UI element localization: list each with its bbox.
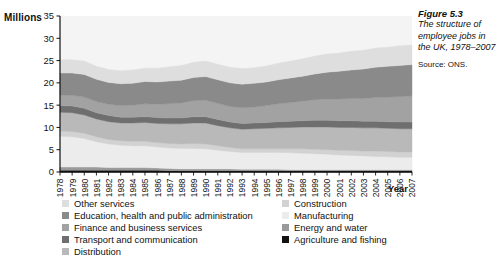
y-tick-label: 10 — [44, 122, 54, 133]
legend-item[interactable]: Transport and communication — [62, 234, 253, 246]
x-tick-label: 2002 — [347, 178, 357, 197]
stacked-area-chart: 0510152025303519781979198019811982198319… — [0, 0, 420, 200]
x-tick-label: 1979 — [68, 178, 78, 197]
x-tick-label: 1978 — [55, 178, 65, 197]
legend-item[interactable]: Agriculture and fishing — [282, 234, 387, 246]
legend-swatch-icon — [62, 236, 69, 243]
y-tick-label: 15 — [44, 100, 54, 111]
legend-item[interactable]: Manufacturing — [282, 210, 387, 222]
x-tick-label: 1998 — [298, 178, 308, 197]
x-tick-label: 1999 — [310, 178, 320, 197]
x-tick-label: 1990 — [201, 178, 211, 197]
figure-source: Source: ONS. — [418, 59, 496, 70]
x-tick-label: 1980 — [80, 178, 90, 197]
x-tick-label: 1989 — [189, 178, 199, 197]
legend-swatch-icon — [62, 212, 69, 219]
x-tick-label: 2003 — [359, 178, 369, 197]
x-tick-label: 1997 — [286, 178, 296, 197]
y-tick-label: 30 — [44, 33, 54, 44]
x-tick-label: 1984 — [128, 178, 138, 197]
legend-item-label: Distribution — [74, 247, 121, 257]
x-tick-label: 1986 — [153, 178, 163, 197]
x-tick-label: 1991 — [213, 178, 223, 197]
x-tick-label: 1982 — [104, 178, 114, 197]
legend-swatch-icon — [282, 224, 289, 231]
legend-item[interactable]: Other services — [62, 198, 253, 210]
figure-container: Millions 0510152025303519781979198019811… — [0, 0, 498, 263]
legend-item[interactable]: Education, health and public administrat… — [62, 210, 253, 222]
legend-swatch-icon — [62, 224, 69, 231]
y-tick-label: 25 — [44, 55, 54, 66]
legend-item-label: Other services — [74, 199, 134, 209]
legend-swatch-icon — [282, 212, 289, 219]
figure-caption-text: The structure of employee jobs in the UK… — [418, 19, 496, 53]
legend-item-label: Agriculture and fishing — [294, 235, 387, 245]
legend-item[interactable]: Construction — [282, 198, 387, 210]
legend-swatch-icon — [62, 248, 69, 255]
chart-legend: Other servicesEducation, health and publ… — [0, 198, 498, 262]
legend-item-label: Education, health and public administrat… — [74, 211, 253, 221]
legend-item[interactable]: Distribution — [62, 246, 253, 258]
x-tick-label: 2007 — [407, 178, 417, 197]
x-tick-label: 1992 — [225, 178, 235, 197]
legend-item-label: Construction — [294, 199, 347, 209]
x-tick-label: 1981 — [92, 178, 102, 197]
x-tick-label: 1987 — [165, 178, 175, 197]
x-tick-label: 2004 — [371, 178, 381, 197]
x-tick-label: 2001 — [335, 178, 345, 197]
y-tick-label: 35 — [44, 10, 54, 21]
legend-column-right: ConstructionManufacturingEnergy and wate… — [282, 198, 387, 246]
legend-item[interactable]: Energy and water — [282, 222, 387, 234]
y-tick-label: 20 — [44, 77, 54, 88]
legend-item-label: Transport and communication — [74, 235, 198, 245]
legend-column-left: Other servicesEducation, health and publ… — [62, 198, 253, 258]
x-tick-label: 2000 — [322, 178, 332, 197]
legend-item-label: Finance and business services — [74, 223, 202, 233]
y-tick-label: 0 — [49, 166, 54, 177]
legend-swatch-icon — [282, 200, 289, 207]
legend-swatch-icon — [62, 200, 69, 207]
legend-item-label: Energy and water — [294, 223, 367, 233]
figure-caption: Figure 5.3 The structure of employee job… — [418, 8, 496, 70]
legend-swatch-icon — [282, 236, 289, 243]
chart-svg: 0510152025303519781979198019811982198319… — [0, 0, 420, 200]
x-tick-label: 1983 — [116, 178, 126, 197]
x-axis-title: Year — [388, 183, 408, 194]
legend-item[interactable]: Finance and business services — [62, 222, 253, 234]
x-tick-label: 1996 — [274, 178, 284, 197]
x-tick-label: 1994 — [250, 178, 260, 197]
x-tick-label: 1993 — [237, 178, 247, 197]
x-tick-label: 1985 — [140, 178, 150, 197]
figure-number: Figure 5.3 — [418, 8, 496, 19]
x-tick-label: 1988 — [177, 178, 187, 197]
y-tick-label: 5 — [49, 144, 54, 155]
x-tick-label: 1995 — [262, 178, 272, 197]
legend-item-label: Manufacturing — [294, 211, 353, 221]
